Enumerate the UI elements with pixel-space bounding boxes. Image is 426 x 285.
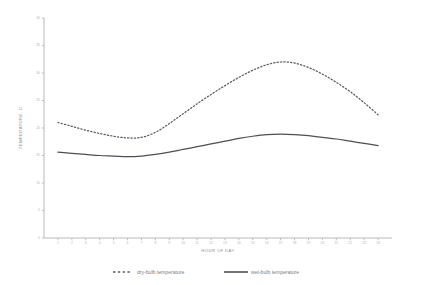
plot-area [44, 18, 392, 238]
x-tick-label: 16 [265, 241, 269, 245]
x-tick-label: 21 [334, 241, 338, 245]
temperature-line-chart: 0510152025303540 12345678910111213141516… [0, 0, 426, 285]
legend-label-wet-bulb: wet-bulb temperature [251, 269, 299, 275]
y-tick-label: 0 [38, 236, 40, 240]
y-tick-label: 25 [36, 98, 40, 102]
x-tick-label: 13 [223, 241, 227, 245]
x-tick-label: 2 [71, 241, 73, 245]
y-tick-label: 40 [36, 16, 40, 20]
x-tick-label: 24 [376, 241, 380, 245]
x-tick-label: 8 [154, 241, 156, 245]
x-tick-label: 7 [140, 241, 142, 245]
x-tick-label: 23 [362, 241, 366, 245]
x-tick-label: 9 [168, 241, 170, 245]
chart-container: 0510152025303540 12345678910111213141516… [0, 0, 426, 285]
x-tick-label: 6 [127, 241, 129, 245]
x-tick-label: 4 [99, 241, 101, 245]
x-tick-label: 5 [113, 241, 115, 245]
y-tick-label: 20 [36, 126, 40, 130]
x-tick-label: 20 [321, 241, 325, 245]
x-tick-label: 12 [209, 241, 213, 245]
x-tick-label: 1 [57, 241, 59, 245]
x-tick-label: 19 [307, 241, 311, 245]
y-tick-label: 35 [36, 43, 40, 47]
x-tick-label: 14 [237, 241, 241, 245]
y-tick-label: 5 [38, 208, 40, 212]
x-tick-label: 11 [195, 241, 199, 245]
y-tick-label: 15 [36, 153, 40, 157]
y-axis-title: TEMPERATURE, C [18, 107, 23, 150]
legend-label-dry-bulb: dry-bulb temperature [137, 269, 184, 275]
x-tick-label: 18 [293, 241, 297, 245]
y-tick-label: 30 [36, 71, 40, 75]
y-tick-label: 10 [36, 181, 40, 185]
x-tick-label: 22 [348, 241, 352, 245]
x-tick-label: 3 [85, 241, 87, 245]
x-tick-label: 10 [181, 241, 185, 245]
x-tick-label: 15 [251, 241, 255, 245]
x-tick-label: 17 [279, 241, 283, 245]
x-axis-title: HOUR OF DAY [201, 248, 234, 253]
